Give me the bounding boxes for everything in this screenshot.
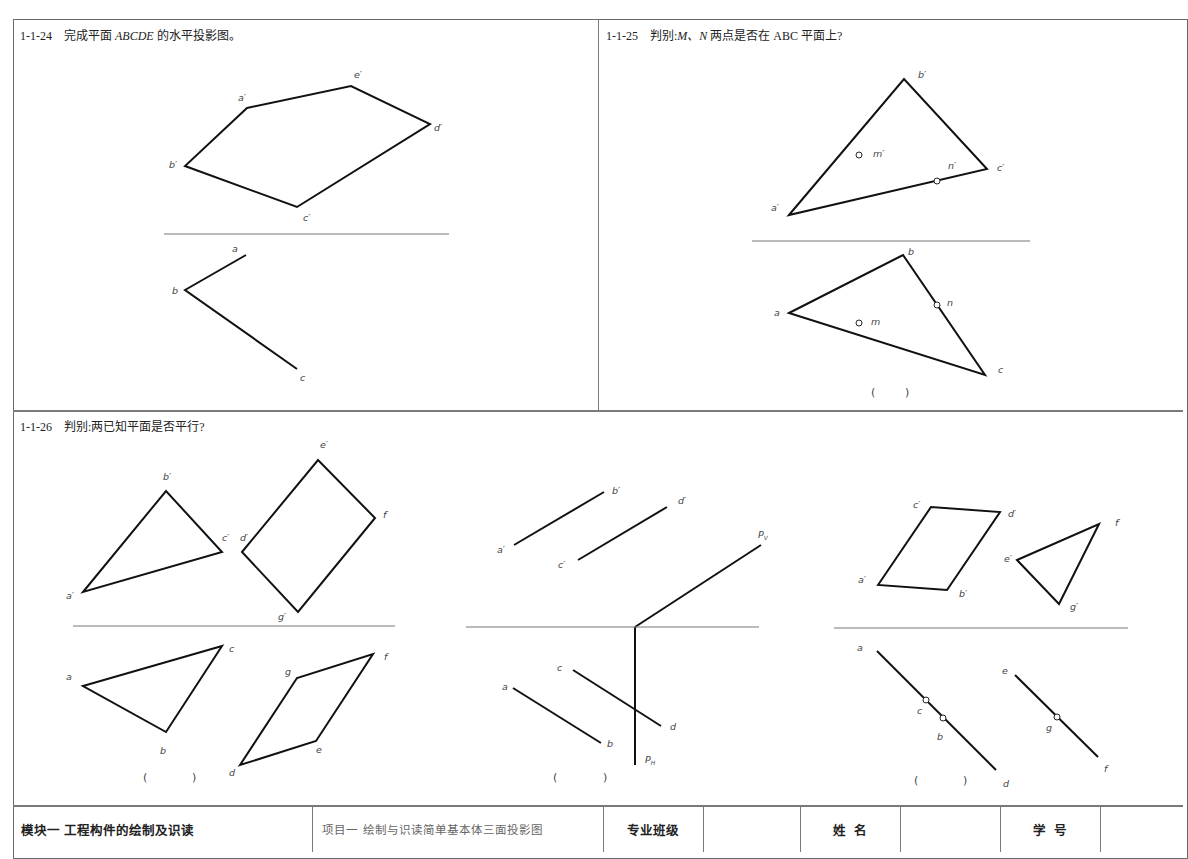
- triangle-top-view: [789, 255, 985, 375]
- svg-text:f: f: [384, 651, 389, 662]
- svg-text:b: b: [937, 731, 943, 742]
- triangle-efg-front: [1017, 524, 1099, 604]
- svg-text:a: a: [232, 243, 238, 254]
- svg-text:c: c: [300, 372, 306, 383]
- trace-pv: [635, 545, 761, 627]
- svg-text:c′: c′: [558, 559, 566, 570]
- footer-id-label: 学 号: [1000, 806, 1100, 852]
- svg-text:d′: d′: [1008, 508, 1017, 519]
- footer-name-field[interactable]: [900, 806, 1000, 852]
- svg-text:f′: f′: [1115, 517, 1121, 528]
- point-b: [940, 715, 946, 721]
- svg-text:b′: b′: [169, 159, 178, 170]
- line-ab-front: [514, 492, 604, 545]
- svg-text:f′: f′: [383, 509, 389, 520]
- svg-text:g: g: [1046, 722, 1052, 733]
- svg-text:): ): [603, 771, 607, 784]
- svg-text:b′: b′: [959, 588, 968, 599]
- svg-text:g′: g′: [1070, 601, 1079, 612]
- svg-text:g′: g′: [278, 611, 287, 622]
- svg-text:c: c: [998, 364, 1004, 375]
- svg-text:a: a: [857, 642, 863, 653]
- svg-text:e′: e′: [320, 439, 329, 450]
- svg-text:f: f: [1104, 763, 1109, 774]
- svg-text:e′: e′: [1004, 553, 1013, 564]
- svg-text:b′: b′: [918, 69, 927, 80]
- svg-text:PH: PH: [645, 754, 656, 766]
- point-m: [856, 320, 862, 326]
- point-c: [923, 697, 929, 703]
- svg-text:a′: a′: [771, 202, 780, 213]
- svg-text:b′: b′: [163, 471, 172, 482]
- footer-class-field[interactable]: [703, 806, 800, 852]
- svg-text:c′: c′: [303, 212, 311, 223]
- svg-text:): ): [905, 386, 909, 399]
- partial-top-view: [185, 255, 297, 369]
- svg-text:c′: c′: [222, 532, 230, 543]
- svg-text:PV: PV: [758, 529, 769, 541]
- svg-text:b: b: [908, 246, 914, 257]
- svg-text:a: a: [774, 307, 780, 318]
- svg-text:c: c: [557, 662, 563, 673]
- svg-text:d′: d′: [434, 122, 443, 133]
- footer-module: 模块一 工程构件的绘制及识读: [21, 806, 311, 852]
- svg-text:d: d: [229, 767, 236, 778]
- svg-text:c: c: [229, 643, 235, 654]
- triangle-abc-front: [83, 491, 222, 592]
- svg-text:d: d: [670, 721, 677, 732]
- svg-text:m: m: [871, 316, 880, 327]
- svg-text:a′: a′: [497, 544, 506, 555]
- svg-text:a′: a′: [66, 590, 75, 601]
- line-ab-top: [513, 688, 601, 743]
- svg-text:e: e: [1002, 665, 1008, 676]
- answer-blank-group-1: (: [143, 771, 147, 784]
- point-n-prime: [934, 178, 940, 184]
- pentagon-front-view: [185, 86, 430, 207]
- svg-text:b: b: [172, 285, 178, 296]
- rectangle-defg-front: [242, 460, 375, 612]
- svg-text:a′: a′: [238, 92, 247, 103]
- svg-text:m′: m′: [873, 148, 885, 159]
- svg-text:a′: a′: [858, 574, 867, 585]
- answer-blank-group-3: (: [914, 774, 918, 787]
- point-g: [1054, 714, 1060, 720]
- line-cd-front: [578, 507, 667, 560]
- svg-text:c: c: [917, 705, 923, 716]
- svg-text:e: e: [316, 744, 322, 755]
- svg-text:c′: c′: [913, 499, 921, 510]
- svg-text:d′: d′: [678, 495, 687, 506]
- svg-text:): ): [192, 771, 196, 784]
- footer-name-label: 姓 名: [800, 806, 900, 852]
- svg-text:g: g: [285, 666, 291, 677]
- line-ad-top: [877, 651, 996, 770]
- line-cd-top: [573, 670, 661, 726]
- triangle-front-view: [789, 79, 987, 215]
- parallelogram-defg-top: [240, 654, 373, 765]
- parallelogram-abcd-front: [878, 507, 1000, 590]
- answer-blank-group-2: (: [553, 771, 557, 784]
- svg-text:n: n: [947, 297, 953, 308]
- point-n: [934, 302, 940, 308]
- footer-project: 项目一 绘制与识读简单基本体三面投影图: [322, 806, 602, 852]
- triangle-abc-top: [83, 646, 222, 732]
- svg-text:e′: e′: [354, 69, 363, 80]
- svg-text:b: b: [607, 738, 613, 749]
- svg-text:c′: c′: [997, 162, 1005, 173]
- svg-text:b: b: [160, 745, 166, 756]
- svg-text:a: a: [66, 671, 72, 682]
- point-m-prime: [856, 152, 862, 158]
- svg-text:n′: n′: [948, 160, 957, 171]
- footer-class-label: 专业班级: [603, 806, 703, 852]
- svg-text:d: d: [1003, 778, 1010, 789]
- footer-id-field[interactable]: [1100, 806, 1183, 852]
- answer-blank-1-1-25: (: [871, 386, 875, 399]
- svg-text:b′: b′: [612, 485, 621, 496]
- svg-text:d′: d′: [240, 532, 249, 543]
- svg-text:): ): [963, 774, 967, 787]
- svg-text:a: a: [502, 681, 508, 692]
